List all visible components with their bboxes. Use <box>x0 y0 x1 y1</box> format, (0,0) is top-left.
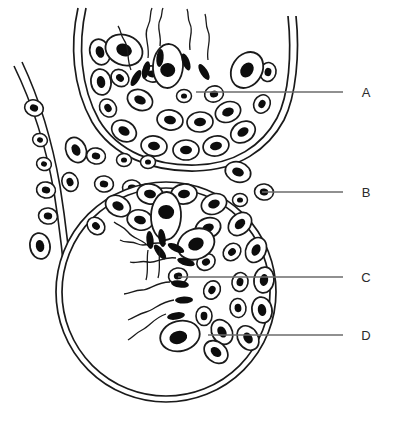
left-tubule-cells <box>22 97 58 260</box>
label-d: D <box>361 328 370 343</box>
label-b: B <box>362 185 371 200</box>
label-c: C <box>361 270 370 285</box>
lower-seminiferous-tubule <box>56 182 276 402</box>
upper-seminiferous-tubule <box>74 8 298 171</box>
diagram-canvas: A B C D <box>0 0 400 426</box>
germinal-epithelium-cell-upper-tubule <box>250 92 273 116</box>
histology-figure: A B C D <box>0 0 400 426</box>
label-a: A <box>362 85 371 100</box>
